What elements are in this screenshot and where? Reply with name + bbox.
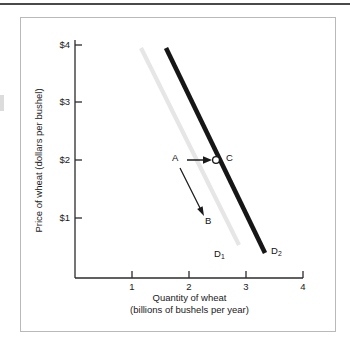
y-axis-title: Price of wheat (dollars per bushel) — [33, 61, 44, 261]
figure-frame — [20, 17, 336, 332]
x-axis-title-line2: (billions of bushels per year) — [72, 304, 307, 316]
point-label-c: C — [226, 152, 233, 163]
y-tick-label-2: $2 — [48, 154, 70, 165]
curve-label-d1-text: D — [214, 248, 221, 259]
x-tick-label-4: 4 — [293, 281, 313, 292]
curve-label-d1: D1 — [214, 248, 225, 259]
y-tick-label-4: $4 — [48, 39, 70, 50]
point-label-b: B — [205, 215, 211, 226]
x-tick-label-1: 1 — [122, 281, 142, 292]
x-axis-title: Quantity of wheat (billions of bushels p… — [72, 292, 307, 315]
x-tick-label-2: 2 — [179, 281, 199, 292]
curve-label-d2: D2 — [271, 245, 282, 256]
curve-label-d2-sub: 2 — [278, 250, 282, 257]
x-axis-title-line1: Quantity of wheat — [72, 292, 307, 304]
curve-label-d1-sub: 1 — [221, 253, 225, 260]
x-tick-label-3: 3 — [236, 281, 256, 292]
y-tick-label-1: $1 — [48, 212, 70, 223]
page-edge-mark — [0, 95, 4, 111]
point-label-a: A — [172, 152, 178, 163]
figure-page: $4 $3 $2 $1 1 2 3 4 Price of wheat (doll… — [0, 0, 350, 353]
curve-label-d2-text: D — [271, 245, 278, 256]
page-top-rule — [0, 3, 350, 5]
y-tick-label-3: $3 — [48, 96, 70, 107]
